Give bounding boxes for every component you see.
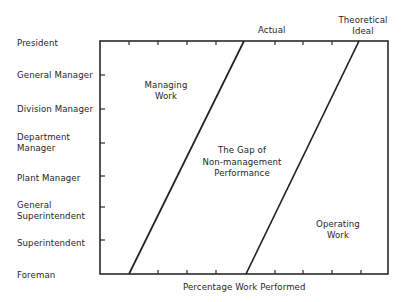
y-label-plant-manager: Plant Manager: [17, 173, 80, 183]
theoretical-ideal-line-label: Theoretical Ideal: [335, 15, 391, 37]
y-label-department-manager: Department Manager: [17, 132, 70, 154]
y-label-general-manager: General Manager: [17, 70, 93, 80]
y-label-general-superintendent: General Superintendent: [17, 200, 85, 222]
gap-label: The Gap of Non-management Performance: [198, 145, 286, 180]
actual-line-label: Actual: [258, 25, 286, 35]
y-label-president: President: [17, 38, 58, 48]
y-label-superintendent: Superintendent: [17, 238, 85, 248]
y-label-foreman: Foreman: [17, 270, 55, 280]
y-label-division-manager: Division Manager: [17, 104, 93, 114]
x-axis-label: Percentage Work Performed: [183, 282, 306, 292]
operating-work-label: Operating Work: [308, 219, 368, 241]
managing-work-label: Managing Work: [136, 80, 196, 102]
